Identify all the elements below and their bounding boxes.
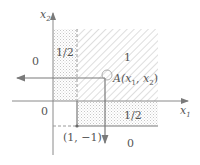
left-strip-dotted-region (53, 29, 77, 101)
region-left-zero-label: 0 (32, 55, 39, 68)
cdf-region-diagram: x2 x1 0 0 1/2 1 1/2 0 A(x1, x2) (1, −1) (0, 0, 200, 165)
x2-axis-label: x2 (40, 8, 51, 23)
corner-point-label: (1, −1) (63, 131, 102, 144)
origin-label: 0 (41, 105, 48, 118)
corner-point-marker (75, 124, 78, 127)
x1-axis-label: x1 (180, 104, 191, 119)
region-bottom-zero-label: 0 (127, 137, 134, 150)
region-lower-half-label: 1/2 (124, 109, 142, 122)
region-one-label: 1 (124, 51, 131, 64)
region-left-half-label: 1/2 (56, 46, 74, 59)
upper-right-hatched-region (77, 29, 158, 101)
lower-strip-dotted-region (77, 101, 158, 126)
